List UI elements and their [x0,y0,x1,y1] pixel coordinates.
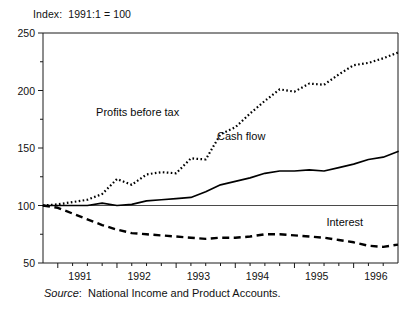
x-tick-label: 1991 [68,270,92,282]
y-ticks-group [38,33,43,263]
series-label-interest: Interest [326,216,363,228]
series-label-profits-before-tax: Profits before tax [96,106,180,118]
y-tick-label: 100 [17,200,35,212]
chart-plot-area: 50100150200250 199119921993199419951996 … [0,0,417,310]
y-tick-label: 200 [17,85,35,97]
series-labels-group: Profits before taxCash flowInterest [96,106,363,228]
x-tick-label: 1992 [127,270,151,282]
y-tick-label: 50 [23,257,35,269]
y-tick-label: 250 [17,27,35,39]
x-tick-labels-group: 199119921993199419951996 [68,270,387,282]
source-label: Source [44,287,79,299]
source-text: National Income and Product Accounts. [88,287,281,299]
y-tick-label: 150 [17,142,35,154]
series-label-cash-flow: Cash flow [217,130,265,142]
chart-figure: Index: 1991:1 = 100 50100150200250 19911… [0,0,417,310]
x-tick-label: 1995 [305,270,329,282]
series-line-cash-flow [43,151,398,205]
x-ticks-group [58,263,383,268]
source-colon: : [79,287,82,299]
y-tick-labels-group: 50100150200250 [17,27,35,269]
x-tick-label: 1994 [246,270,270,282]
x-tick-label: 1996 [364,270,388,282]
axes-group [43,33,398,263]
source-note: Source: National Income and Product Acco… [44,287,281,299]
x-tick-label: 1993 [187,270,211,282]
